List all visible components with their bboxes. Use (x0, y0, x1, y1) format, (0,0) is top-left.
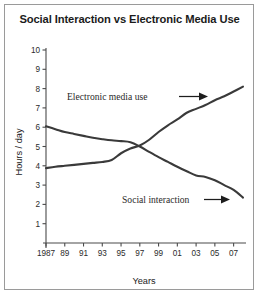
annotation-social-interaction: Social interaction (122, 194, 230, 205)
y-tick-label: 1 (35, 220, 40, 229)
right-arrow-icon (179, 93, 208, 101)
x-tick-label: 91 (79, 249, 89, 258)
right-arrow-icon (204, 196, 230, 204)
y-tick-label: 4 (35, 162, 40, 171)
x-tick-label: 99 (154, 249, 164, 258)
x-tick-label: 89 (60, 249, 70, 258)
x-tick-label-group: 198789919395979901030507 (37, 249, 239, 258)
y-tick-label-group: 12345678910 (31, 46, 41, 229)
series-line-social-interaction (46, 126, 243, 197)
y-tick-label: 9 (35, 65, 40, 74)
x-tick-label: 95 (116, 249, 126, 258)
series-group (46, 87, 243, 198)
line-chart-plot: 12345678910 198789919395979901030507 Yea… (0, 0, 259, 295)
x-tick-label: 97 (135, 249, 145, 258)
y-tick-label: 3 (35, 181, 40, 190)
x-tick-label: 93 (98, 249, 108, 258)
x-tick-label: 05 (210, 249, 220, 258)
y-tick-label: 5 (35, 143, 40, 152)
x-tick-label: 01 (173, 249, 183, 258)
y-tick-label: 10 (31, 46, 41, 55)
annotation-electronic-media-use-label: Electronic media use (67, 91, 147, 102)
y-tick-label: 6 (35, 123, 40, 132)
x-axis-title: Years (132, 276, 156, 286)
y-tick-label: 2 (35, 200, 40, 209)
x-axis: 198789919395979901030507 (37, 243, 246, 258)
annotation-electronic-media-use: Electronic media use (67, 91, 208, 102)
y-tick-label: 7 (35, 104, 40, 113)
x-tick-label: 03 (192, 249, 202, 258)
y-axis-title: Hours / day (14, 128, 24, 175)
x-tick-label: 07 (229, 249, 239, 258)
y-axis: 12345678910 (31, 46, 46, 248)
chart-page: Social Interaction vs Electronic Media U… (0, 0, 259, 295)
x-tick-label: 1987 (37, 249, 56, 258)
y-tick-label: 8 (35, 85, 40, 94)
annotation-social-interaction-label: Social interaction (122, 194, 190, 205)
